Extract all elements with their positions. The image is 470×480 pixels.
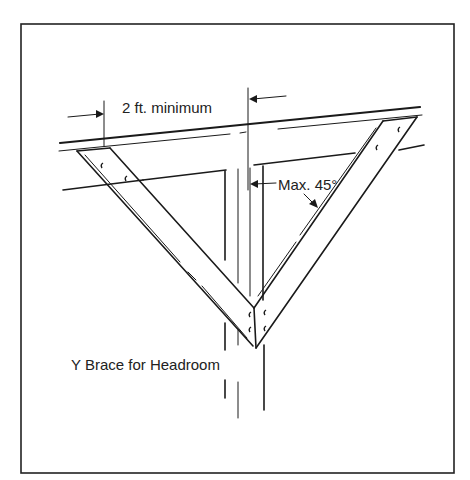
- right-brace: [254, 117, 417, 348]
- vertical-post: [225, 166, 264, 418]
- y-brace-diagram: 2 ft. minimum Max. 45° Y Brace for Headr…: [0, 0, 470, 480]
- angle-label: Max. 45°: [278, 176, 337, 193]
- lower-beam: [63, 145, 424, 190]
- figure-caption: Y Brace for Headroom: [71, 356, 220, 373]
- left-brace: [77, 148, 256, 348]
- dimension-label: 2 ft. minimum: [122, 99, 212, 116]
